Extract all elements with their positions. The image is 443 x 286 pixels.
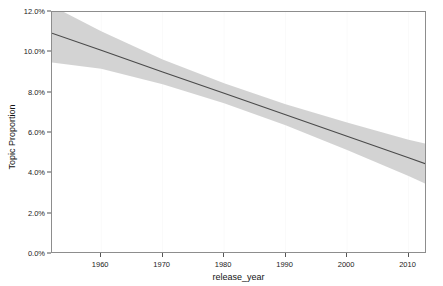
- plot-svg: [52, 12, 426, 253]
- chart-container: 0.0%2.0%4.0%6.0%8.0%10.0%12.0% Topic Pro…: [0, 0, 443, 286]
- y-tick-label: 8.0%: [28, 87, 45, 96]
- x-axis-title: release_year: [0, 272, 443, 282]
- x-tick-label: 2000: [338, 260, 355, 269]
- y-tick-label: 2.0%: [28, 208, 45, 217]
- x-tick-label: 1990: [276, 260, 293, 269]
- y-tick-mark: [47, 212, 51, 213]
- y-axis-title: Topic Proportion: [7, 62, 17, 212]
- x-tick-mark: [162, 253, 163, 257]
- y-tick-mark: [47, 91, 51, 92]
- x-tick-label: 1980: [215, 260, 232, 269]
- trend-line: [52, 33, 426, 164]
- x-tick-mark: [100, 253, 101, 257]
- x-tick-label: 2010: [399, 260, 416, 269]
- x-tick-mark: [346, 253, 347, 257]
- y-tick-mark: [47, 11, 51, 12]
- y-tick-label: 4.0%: [28, 168, 45, 177]
- y-tick-mark: [47, 132, 51, 133]
- y-tick-mark: [47, 51, 51, 52]
- x-tick-mark: [408, 253, 409, 257]
- plot-area: [51, 11, 426, 253]
- x-axis-title-text: release_year: [212, 272, 264, 282]
- x-tick-mark: [285, 253, 286, 257]
- x-axis: 196019701980199020002010 release_year: [0, 253, 443, 286]
- y-tick-label: 6.0%: [28, 128, 45, 137]
- x-tick-label: 1960: [92, 260, 109, 269]
- x-tick-label: 1970: [153, 260, 170, 269]
- y-tick-label: 10.0%: [24, 47, 45, 56]
- y-axis: 0.0%2.0%4.0%6.0%8.0%10.0%12.0% Topic Pro…: [0, 0, 51, 286]
- y-tick-label: 12.0%: [24, 7, 45, 16]
- x-tick-mark: [223, 253, 224, 257]
- y-tick-mark: [47, 172, 51, 173]
